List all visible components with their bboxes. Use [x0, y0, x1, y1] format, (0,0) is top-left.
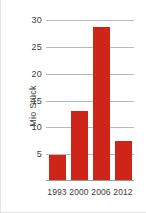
x-axis-tick-label: 2006	[91, 187, 110, 197]
gridline: 25	[46, 47, 134, 48]
y-axis-tick-label: 30	[32, 15, 42, 25]
plot-area: 51015202530 1993200020062012	[46, 12, 134, 181]
bar	[93, 27, 110, 180]
gridline: 15	[46, 101, 134, 102]
y-axis-tick-label: 15	[32, 96, 42, 106]
x-axis-tick-label: 2000	[69, 187, 88, 197]
gridline: 10	[46, 127, 134, 128]
bar-chart-figure: Mio Stück 51015202530 1993200020062012	[0, 0, 146, 213]
y-axis-tick-label: 20	[32, 69, 42, 79]
bar	[71, 111, 88, 180]
gridline: 20	[46, 74, 134, 75]
y-axis-tick-label: 5	[37, 149, 42, 159]
y-axis-label: Mio Stück	[28, 85, 38, 126]
bar	[49, 155, 66, 180]
bar	[115, 141, 132, 180]
x-axis-line	[46, 180, 134, 181]
y-axis-tick-label: 10	[32, 122, 42, 132]
x-axis-tick-label: 2012	[113, 187, 132, 197]
gridline: 30	[46, 20, 134, 21]
x-axis-tick-label: 1993	[47, 187, 66, 197]
y-axis-tick-label: 25	[32, 42, 42, 52]
